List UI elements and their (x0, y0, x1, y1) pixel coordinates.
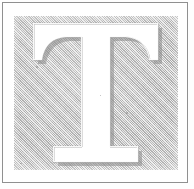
drop-cap-letter (14, 16, 178, 170)
image-alt-text: Ornamental white serif capital letter T … (0, 0, 1, 1)
image-canvas: Ornamental white serif capital letter T … (0, 0, 194, 189)
letter-t-glyph (14, 16, 178, 170)
